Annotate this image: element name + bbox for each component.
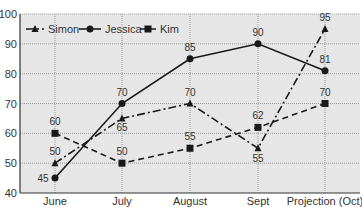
square-marker-icon xyxy=(145,26,152,33)
square-marker-icon xyxy=(119,160,126,167)
square-marker-icon xyxy=(187,145,194,152)
data-label: 50 xyxy=(116,146,128,157)
data-label: 62 xyxy=(252,110,264,121)
data-label: 65 xyxy=(116,122,128,133)
circle-marker-icon xyxy=(322,67,329,74)
y-tick-label: 60 xyxy=(5,127,17,139)
circle-marker-icon xyxy=(52,175,59,182)
data-label: 81 xyxy=(319,54,331,65)
legend-label: Jessica xyxy=(105,23,143,35)
circle-marker-icon xyxy=(187,55,194,62)
data-label: 70 xyxy=(116,87,128,98)
data-label: 70 xyxy=(319,87,331,98)
data-label: 55 xyxy=(184,131,196,142)
square-marker-icon xyxy=(52,130,59,137)
data-label: 70 xyxy=(184,87,196,98)
data-label: 50 xyxy=(49,146,61,157)
data-label: 55 xyxy=(252,153,264,164)
circle-marker-icon xyxy=(87,26,94,33)
legend-label: Kim xyxy=(160,23,179,35)
legend-label: Simon xyxy=(48,23,79,35)
y-tick-label: 40 xyxy=(5,187,17,199)
data-label: 90 xyxy=(252,27,264,38)
x-tick-label: June xyxy=(43,195,67,207)
data-label: 85 xyxy=(184,42,196,53)
x-tick-label: Projection (Oct) xyxy=(287,195,362,207)
y-tick-label: 100 xyxy=(0,8,17,20)
y-tick-label: 80 xyxy=(5,68,17,80)
circle-marker-icon xyxy=(255,40,262,47)
data-label: 45 xyxy=(37,173,49,184)
square-marker-icon xyxy=(255,124,262,131)
x-tick-label: Sept xyxy=(247,195,270,207)
y-tick-label: 90 xyxy=(5,38,17,50)
chart-canvas: 405060708090100JuneJulyAugustSeptProject… xyxy=(0,0,362,207)
x-tick-label: July xyxy=(112,195,132,207)
x-tick-label: August xyxy=(173,195,207,207)
data-label: 60 xyxy=(49,116,61,127)
y-tick-label: 70 xyxy=(5,98,17,110)
square-marker-icon xyxy=(322,100,329,107)
line-chart: 405060708090100JuneJulyAugustSeptProject… xyxy=(0,0,362,207)
y-tick-label: 50 xyxy=(5,157,17,169)
data-label: 95 xyxy=(319,12,331,23)
circle-marker-icon xyxy=(119,100,126,107)
